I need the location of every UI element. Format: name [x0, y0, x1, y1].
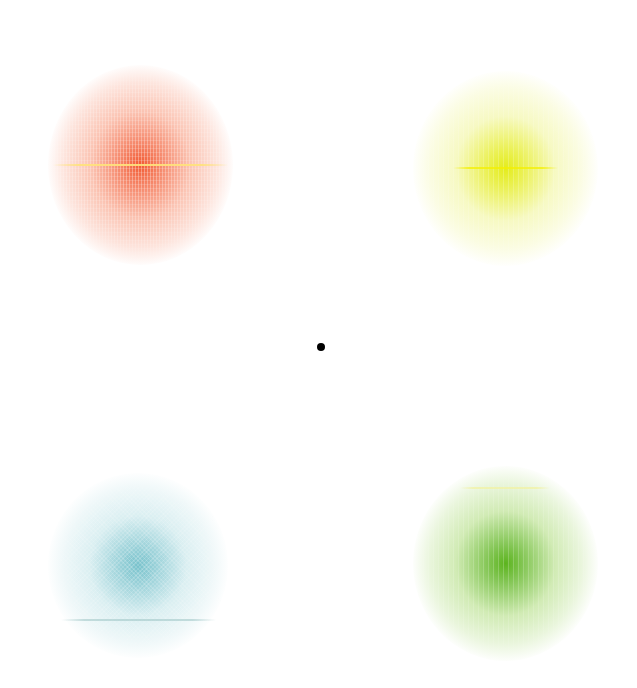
grid-texture	[413, 71, 598, 266]
highlight-line	[453, 167, 558, 169]
highlight-line	[460, 487, 550, 489]
target-green-blob[interactable]	[413, 466, 598, 661]
target-red-blob[interactable]	[48, 65, 233, 265]
game-canvas[interactable]	[0, 0, 637, 688]
fixation-dot-icon	[317, 343, 325, 351]
grid-texture	[48, 473, 228, 658]
target-cyan-blob[interactable]	[48, 473, 228, 658]
grid-texture	[48, 65, 233, 265]
grid-texture	[413, 466, 598, 661]
shadow-line	[61, 619, 216, 621]
target-yellow-blob[interactable]	[413, 71, 598, 266]
highlight-line	[53, 164, 228, 166]
